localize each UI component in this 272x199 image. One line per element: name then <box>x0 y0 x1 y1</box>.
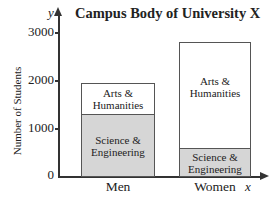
segment-label: Science & <box>192 151 238 163</box>
bar-men-science-engineering: Science &Engineering <box>81 114 155 177</box>
segment-label: Arts & <box>200 75 230 87</box>
y-tick-label-3000: 3000 <box>14 24 54 40</box>
segment-label: Engineering <box>91 146 145 158</box>
y-axis-line <box>58 14 60 177</box>
y-tick-1000 <box>55 128 59 130</box>
segment-label: Science & <box>95 134 141 146</box>
y-axis-arrow-icon <box>54 7 62 16</box>
bar-men-arts-humanities: Arts &Humanities <box>81 83 155 115</box>
y-tick-label-2000: 2000 <box>14 72 54 88</box>
y-tick-label-0: 0 <box>14 167 54 183</box>
bar-women-science-engineering: Science &Engineering <box>179 148 251 177</box>
segment-label: Arts & <box>103 87 133 99</box>
x-category-women: Women <box>179 179 251 195</box>
bar-women-arts-humanities: Arts &Humanities <box>179 42 251 149</box>
y-tick-3000 <box>55 32 59 34</box>
y-tick-2000 <box>55 80 59 82</box>
x-axis-arrow-icon <box>260 172 269 180</box>
chart-title: Campus Body of University X <box>75 5 260 22</box>
segment-label: Humanities <box>190 87 241 99</box>
x-category-men: Men <box>81 179 155 195</box>
segment-label: Humanities <box>93 99 144 111</box>
y-tick-label-1000: 1000 <box>14 120 54 136</box>
segment-label: Engineering <box>188 163 242 175</box>
y-axis-symbol: y <box>48 5 54 21</box>
